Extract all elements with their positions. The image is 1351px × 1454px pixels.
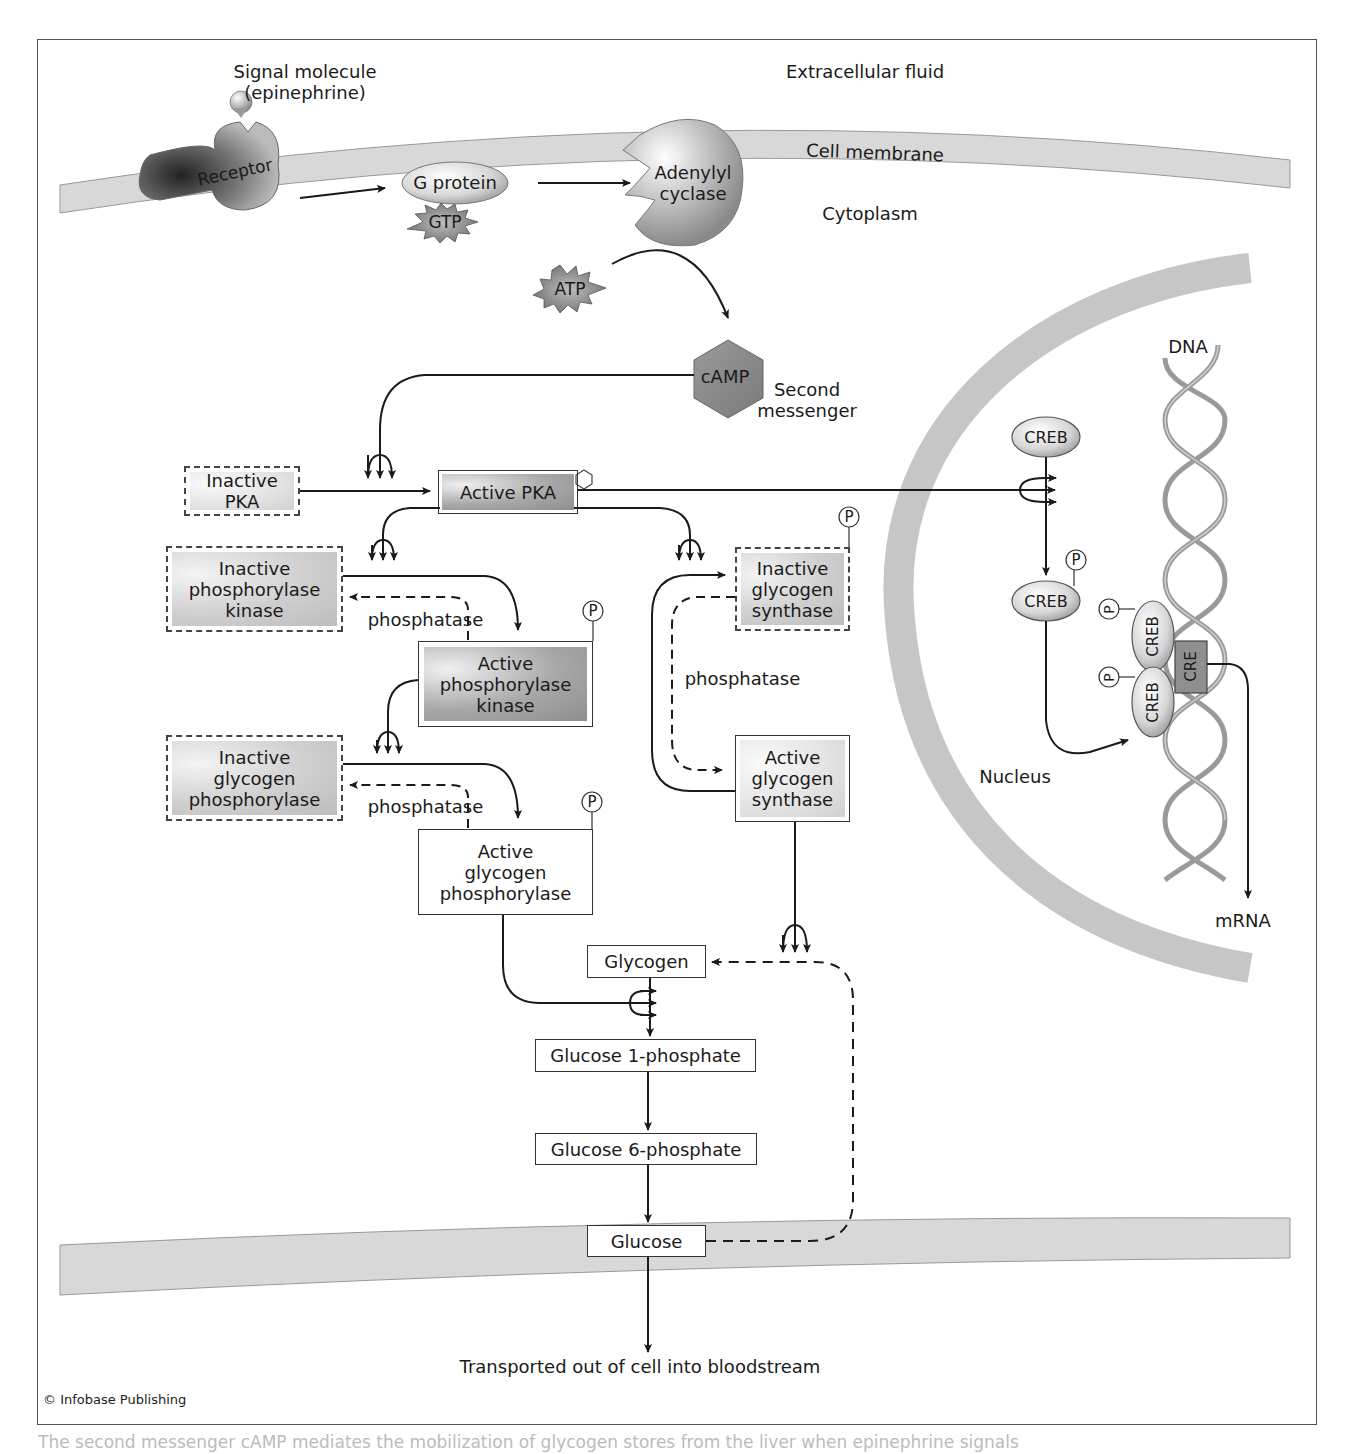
agp-line1: Active [478, 841, 534, 862]
camp-bound-icon [576, 470, 592, 489]
active-glycogen-phosphorylase-box: Active glycogen phosphorylase [418, 829, 593, 915]
creb-dimer-bottom-label: CREB [1143, 673, 1164, 733]
atp-label: ATP [540, 279, 600, 300]
g-protein-label: G protein [405, 172, 505, 193]
phosphate-badge-dimer-bottom: P [1099, 668, 1120, 688]
igp-line1: Inactive [219, 747, 290, 768]
glycogen-box: Glycogen [587, 945, 706, 978]
inactive-pka-label: Inactive PKA [190, 472, 294, 510]
nuclear-triple-arrow-icon [1020, 478, 1056, 502]
activation-triple-arrow-icon [368, 455, 392, 478]
caption: The second messenger cAMP mediates the m… [0, 1432, 1351, 1454]
active-pka-label: Active PKA [442, 474, 574, 510]
agp-line3: phosphorylase [440, 883, 572, 904]
glucose-1-phosphate-box: Glucose 1-phosphate [535, 1039, 756, 1072]
signal-molecule-label: Signal molecule (epinephrine) [215, 61, 395, 103]
copyright: © Infobase Publishing [43, 1392, 186, 1407]
igp-line2: glycogen [214, 768, 296, 789]
inactive-glycogen-synthase-box: Inactive glycogen synthase [735, 547, 850, 631]
ags-line1: Active [765, 747, 821, 768]
glucose-box: Glucose [587, 1225, 706, 1257]
phosphatase-label-3: phosphatase [680, 668, 805, 689]
dna-helix-icon [1165, 345, 1225, 880]
nucleus-label: Nucleus [970, 766, 1060, 787]
apk-line3: kinase [476, 695, 534, 716]
phosphate-badge-creb: P [1066, 550, 1086, 571]
phosphate-badge-dimer-top: P [1099, 600, 1120, 620]
ags-line3: synthase [752, 789, 833, 810]
signal-line2: (epinephrine) [215, 82, 395, 103]
gtp-label: GTP [420, 212, 470, 233]
extracellular-label: Extracellular fluid [760, 61, 970, 82]
ags-line2: glycogen [752, 768, 834, 789]
inactive-pka-box: Inactive PKA [184, 466, 300, 516]
phosphate-badge-igs: P [839, 507, 859, 528]
igs-line1: Inactive [757, 558, 828, 579]
creb-phosphorylated-label: CREB [1016, 591, 1076, 612]
dna-label: DNA [1163, 336, 1213, 357]
ipk-line1: Inactive [219, 558, 290, 579]
active-glycogen-synthase-box: Active glycogen synthase [735, 735, 850, 822]
second-line1: Second [752, 379, 862, 400]
creb-label: CREB [1016, 427, 1076, 448]
glucose-6-phosphate-box: Glucose 6-phosphate [535, 1133, 757, 1165]
inactive-glycogen-phosphorylase-box: Inactive glycogen phosphorylase [166, 735, 343, 821]
bloodstream-label: Transported out of cell into bloodstream [430, 1356, 850, 1377]
active-phosphorylase-kinase-box: Active phosphorylase kinase [418, 641, 593, 727]
igp-line3: phosphorylase [189, 789, 321, 810]
igs-line3: synthase [752, 600, 833, 621]
apk-line1: Active [478, 653, 534, 674]
second-line2: messenger [752, 400, 862, 421]
creb-dimer-top-label: CREB [1143, 607, 1164, 667]
adenylyl-line1: Adenylyl [643, 162, 743, 183]
cytoplasm-label: Cytoplasm [805, 203, 935, 224]
camp-label: cAMP [690, 366, 760, 387]
igs-line2: glycogen [752, 579, 834, 600]
adenylyl-line2: cyclase [643, 183, 743, 204]
mrna-label: mRNA [1208, 910, 1278, 931]
apk-line2: phosphorylase [440, 674, 572, 695]
ipk-line2: phosphorylase [189, 579, 321, 600]
adenylyl-cyclase-label: Adenylyl cyclase [643, 162, 743, 204]
inactive-phosphorylase-kinase-box: Inactive phosphorylase kinase [166, 546, 343, 632]
second-messenger-label: Second messenger [752, 379, 862, 421]
phosphatase-label-1: phosphatase [363, 609, 488, 630]
cre-label: CRE [1181, 642, 1202, 692]
ipk-line3: kinase [225, 600, 283, 621]
signal-line1: Signal molecule [215, 61, 395, 82]
phosphate-badge-agp: P [582, 792, 602, 813]
agp-line2: glycogen [465, 862, 547, 883]
phosphate-badge-apk: P [583, 601, 603, 622]
active-pka-box: Active PKA [438, 470, 578, 514]
phosphatase-label-2: phosphatase [363, 796, 488, 817]
